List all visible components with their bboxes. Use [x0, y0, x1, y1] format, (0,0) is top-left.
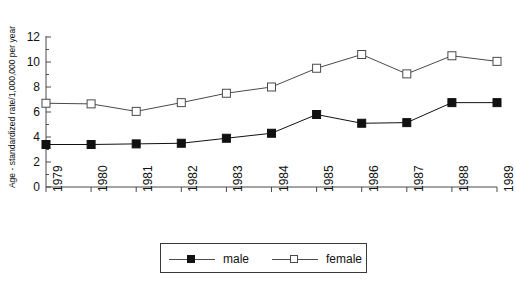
x-tick-label: 1979 — [52, 165, 64, 192]
legend-item-male[interactable]: male — [169, 244, 249, 274]
x-tick-label: 1982 — [187, 165, 199, 192]
data-point-male — [87, 141, 95, 149]
data-point-female — [87, 100, 95, 108]
data-point-female — [448, 52, 456, 60]
x-tick-label: 1983 — [232, 165, 244, 192]
legend-line-male — [169, 259, 215, 260]
y-axis-title: Age - standardized rate/1,000,000 per ye… — [7, 17, 17, 197]
y-tick-label: 0 — [18, 181, 40, 193]
open-square-icon — [290, 255, 298, 263]
data-point-female — [268, 83, 276, 91]
data-point-male — [177, 139, 185, 147]
y-tick-label: 12 — [18, 31, 40, 43]
y-tick-label: 8 — [18, 81, 40, 93]
legend-label-male: male — [223, 252, 249, 266]
x-tick-label: 1986 — [368, 165, 380, 192]
data-point-female — [222, 89, 230, 97]
data-point-female — [313, 64, 321, 72]
data-point-female — [132, 107, 140, 115]
y-tick-label: 2 — [18, 156, 40, 168]
chart-title — [0, 0, 506, 3]
x-tick-label: 1985 — [323, 165, 335, 192]
data-point-male — [268, 129, 276, 137]
data-point-female — [403, 70, 411, 78]
x-tick-label: 1989 — [503, 165, 515, 192]
x-tick-label: 1980 — [97, 165, 109, 192]
x-tick-label: 1988 — [458, 165, 470, 192]
data-point-male — [222, 134, 230, 142]
y-tick-label: 4 — [18, 131, 40, 143]
series-line-male — [46, 103, 497, 145]
data-point-male — [448, 99, 456, 107]
data-point-female — [42, 99, 50, 107]
filled-square-icon — [187, 255, 195, 263]
data-point-male — [403, 119, 411, 127]
x-tick-label: 1984 — [278, 165, 290, 192]
legend-line-female — [272, 259, 318, 260]
legend-label-female: female — [326, 252, 362, 266]
legend: male female — [160, 243, 367, 273]
y-tick-label: 6 — [18, 106, 40, 118]
data-point-male — [132, 140, 140, 148]
x-tick-label: 1987 — [413, 165, 425, 192]
y-tick-label: 10 — [18, 56, 40, 68]
data-point-female — [358, 51, 366, 59]
data-point-female — [493, 57, 501, 65]
data-point-male — [313, 111, 321, 119]
x-tick-label: 1981 — [142, 165, 154, 192]
data-point-male — [358, 119, 366, 127]
data-point-female — [177, 99, 185, 107]
legend-item-female[interactable]: female — [272, 244, 362, 274]
data-point-male — [42, 141, 50, 149]
data-point-male — [493, 99, 501, 107]
